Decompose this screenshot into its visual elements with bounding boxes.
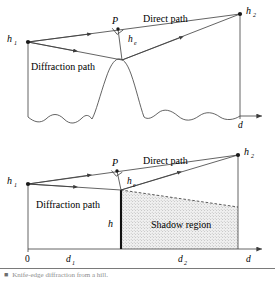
bottom-panel: h 1 h 2 P h e h Direct path Diffraction … xyxy=(7,146,262,266)
label-he-sub-top: e xyxy=(134,40,137,46)
label-axis-origin: 0 xyxy=(25,254,30,264)
label-h1-sub-bottom: 1 xyxy=(14,182,17,188)
hill-profile xyxy=(92,59,144,119)
h1-vertex-dot-top xyxy=(26,40,30,44)
label-h2-sub-top: 2 xyxy=(253,12,256,18)
h2-vertex-dot-top xyxy=(238,12,242,16)
top-panel: h 1 h 2 P h e Direct path Diffraction pa… xyxy=(7,5,262,130)
caption-marker-icon: ■ xyxy=(4,271,8,280)
label-diffraction-path-bottom: Diffraction path xyxy=(36,199,100,210)
h1-vertex-dot-bottom xyxy=(26,182,30,186)
figure-container: h 1 h 2 P h e Direct path Diffraction pa… xyxy=(0,0,275,282)
diffraction-arrow-incident-bottom xyxy=(28,184,76,187)
label-h1-top: h xyxy=(7,33,12,44)
label-point-p-bottom: P xyxy=(111,157,118,168)
point-p-dot-top xyxy=(116,27,119,30)
label-direct-path-top: Direct path xyxy=(143,13,188,24)
label-he-top: h xyxy=(128,34,133,44)
caption-divider xyxy=(0,268,275,269)
label-h-bottom: h xyxy=(108,218,113,229)
direct-path-arrow-bottom xyxy=(28,175,90,184)
label-d2-sub: 2 xyxy=(184,260,187,266)
label-direct-path-bottom: Direct path xyxy=(143,155,188,166)
diffraction-diagram: h 1 h 2 P h e Direct path Diffraction pa… xyxy=(0,0,275,282)
label-d1-sub: 1 xyxy=(72,260,75,266)
label-d-top: d xyxy=(238,120,243,130)
diffraction-arrow-incident-top xyxy=(28,42,76,51)
figure-caption: ■Knife-edge diffraction from a hill. xyxy=(4,271,272,280)
point-p-dot-bottom xyxy=(115,169,118,172)
label-diffraction-path-top: Diffraction path xyxy=(31,61,95,72)
label-d2: d xyxy=(178,254,183,264)
terrain-left-wavy xyxy=(28,115,92,124)
h2-vertex-dot-bottom xyxy=(236,153,240,157)
label-h1-bottom: h xyxy=(7,175,12,186)
label-d-bottom: d xyxy=(246,254,251,264)
direct-path-arrow-top xyxy=(28,34,90,42)
label-he-bottom: h xyxy=(127,176,132,186)
terrain-right-wavy xyxy=(144,110,240,120)
label-h1-sub-top: 1 xyxy=(14,40,17,46)
label-he-sub-bottom: e xyxy=(133,182,136,188)
label-h2-sub-bottom: 2 xyxy=(251,153,254,159)
label-point-p-top: P xyxy=(111,15,118,26)
label-d1: d xyxy=(66,254,71,264)
label-h2-bottom: h xyxy=(244,146,249,157)
label-h2-top: h xyxy=(246,5,251,16)
caption-text: Knife-edge diffraction from a hill. xyxy=(12,271,108,279)
label-shadow-region: Shadow region xyxy=(151,219,211,230)
